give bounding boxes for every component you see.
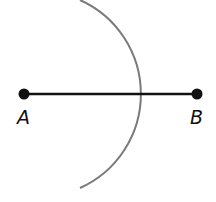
label-point-a: A (15, 106, 30, 128)
point-a (19, 89, 30, 100)
label-point-b: B (190, 106, 203, 128)
point-b (192, 89, 203, 100)
geometry-diagram: A B (0, 0, 216, 202)
